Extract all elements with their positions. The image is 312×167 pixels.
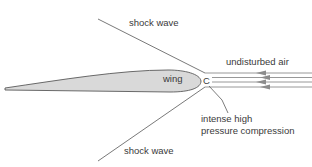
- arrow-left-icon: [256, 71, 266, 76]
- arrow-left-icon: [260, 75, 270, 80]
- undisturbed-air-label: undisturbed air: [226, 56, 289, 68]
- arrow-left-icon: [256, 80, 266, 85]
- shock-wave-top-label: shock wave: [129, 17, 179, 29]
- airflow-lines: [205, 73, 312, 87]
- arrow-left-icon: [260, 85, 270, 90]
- compression-label-line1: intense high: [201, 113, 252, 125]
- shock-wave-bottom-label: shock wave: [124, 145, 174, 157]
- compression-leader-line: [209, 86, 228, 113]
- wing-label: wing: [163, 73, 183, 85]
- compression-label-line2: pressure compression: [201, 125, 294, 137]
- point-c-label: C: [203, 75, 210, 87]
